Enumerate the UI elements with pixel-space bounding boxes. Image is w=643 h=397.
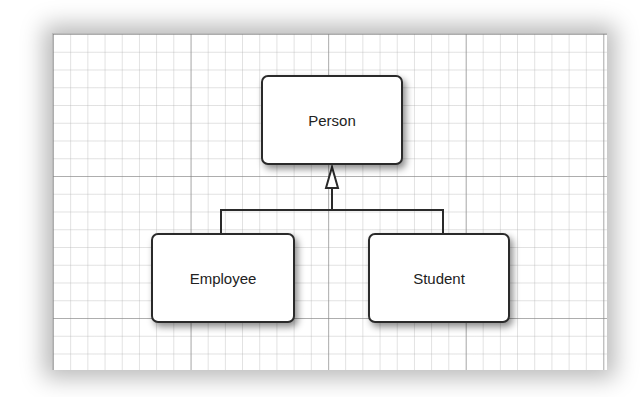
branch-line	[221, 210, 443, 235]
generalization-arrow-icon	[326, 167, 338, 188]
class-box-student[interactable]: Student	[368, 233, 510, 323]
class-box-employee[interactable]: Employee	[151, 233, 295, 323]
class-label: Person	[308, 112, 356, 129]
inheritance-connectors	[0, 0, 643, 397]
class-label: Student	[413, 270, 465, 287]
class-box-person[interactable]: Person	[261, 75, 403, 165]
class-label: Employee	[190, 270, 257, 287]
